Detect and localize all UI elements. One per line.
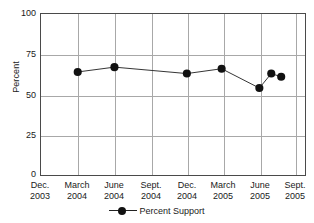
- chart-container: Percent 100 75 50 25 0 Dec. 2003 March 2…: [0, 0, 314, 223]
- data-point: [183, 70, 191, 78]
- x-tick-sept-2005-line2: 2005: [267, 191, 314, 202]
- data-point: [255, 84, 263, 92]
- x-tick-sept-2005-line1: Sept.: [267, 180, 314, 191]
- legend-label: Percent Support: [139, 206, 204, 216]
- series-percent-support: [41, 14, 305, 175]
- data-point: [74, 68, 82, 76]
- series-line: [78, 67, 281, 88]
- y-tick-50: 50: [10, 91, 36, 100]
- y-tick-75: 75: [10, 50, 36, 59]
- plot-area: [40, 13, 306, 176]
- legend-item-percent-support: Percent Support: [109, 205, 204, 216]
- legend-marker-icon: [109, 206, 137, 216]
- y-tick-25: 25: [10, 131, 36, 140]
- data-point: [277, 73, 285, 81]
- y-tick-0: 0: [10, 170, 36, 179]
- chart-legend: Percent Support: [0, 205, 314, 216]
- y-tick-100: 100: [10, 9, 36, 18]
- x-tick-sept-2005: Sept. 2005: [267, 180, 314, 201]
- data-point: [218, 65, 226, 73]
- data-point: [267, 70, 275, 78]
- data-point: [110, 63, 118, 71]
